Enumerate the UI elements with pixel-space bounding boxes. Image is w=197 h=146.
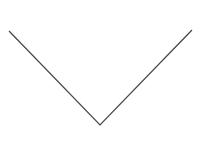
chevron-down-icon [0, 0, 197, 146]
icon-canvas [0, 0, 197, 146]
